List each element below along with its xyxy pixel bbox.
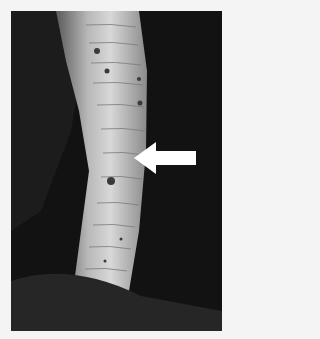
- arrow-left-icon: [134, 142, 196, 174]
